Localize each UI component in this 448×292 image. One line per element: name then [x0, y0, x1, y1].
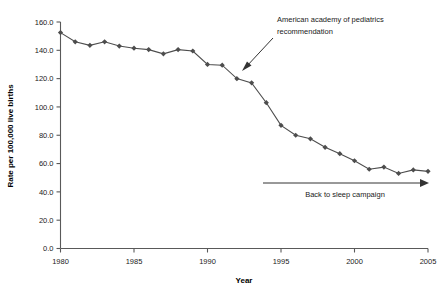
data-point: [337, 151, 342, 156]
y-tick-label: 80.0: [39, 131, 54, 140]
y-tick-label: 120.0: [35, 74, 54, 83]
annotation-aap-line1: American academy of pediatrics: [277, 15, 384, 24]
x-tick-label: 2005: [420, 257, 437, 266]
x-axis-ticks: 198019851990199520002005: [52, 249, 436, 266]
data-point: [352, 158, 357, 163]
data-point: [176, 47, 181, 52]
y-tick-label: 0.0: [43, 244, 53, 253]
x-tick-label: 1980: [52, 257, 69, 266]
data-series-line: [61, 33, 429, 174]
data-point: [58, 30, 63, 35]
sids-rate-line-chart: Rate per 100,000 live births Year 0.020.…: [0, 0, 448, 292]
data-point: [323, 145, 328, 150]
annotation-aap-arrow: [242, 38, 273, 71]
data-point: [102, 39, 107, 44]
x-tick-label: 1985: [126, 257, 143, 266]
y-tick-label: 140.0: [35, 46, 54, 55]
y-tick-label: 40.0: [39, 188, 54, 197]
data-series-markers: [58, 30, 431, 176]
data-point: [146, 47, 151, 52]
y-tick-label: 20.0: [39, 216, 54, 225]
data-point: [161, 51, 166, 56]
annotation-back-to-sleep: Back to sleep campaign: [263, 179, 429, 199]
x-tick-label: 1990: [199, 257, 216, 266]
y-tick-label: 60.0: [39, 159, 54, 168]
data-point: [117, 43, 122, 48]
y-tick-label: 160.0: [35, 18, 54, 27]
x-tick-label: 2000: [346, 257, 363, 266]
data-point: [87, 43, 92, 48]
annotation-aap: American academy of pediatrics recommend…: [242, 15, 384, 71]
y-axis-title: Rate per 100,000 live births: [6, 84, 15, 188]
data-point: [425, 169, 430, 174]
y-tick-label: 100.0: [35, 103, 54, 112]
data-point: [308, 136, 313, 141]
x-tick-label: 1995: [273, 257, 290, 266]
annotation-back-to-sleep-label: Back to sleep campaign: [305, 190, 385, 199]
data-point: [411, 167, 416, 172]
data-point: [367, 167, 372, 172]
chart-figure: Rate per 100,000 live births Year 0.020.…: [0, 0, 448, 292]
y-axis-ticks: 0.020.040.060.080.0100.0120.0140.0160.0: [35, 18, 61, 254]
data-point: [396, 171, 401, 176]
annotation-aap-line2: recommendation: [277, 27, 333, 36]
x-axis-title: Year: [236, 276, 253, 285]
data-point: [381, 165, 386, 170]
data-point: [73, 39, 78, 44]
data-point: [131, 46, 136, 51]
